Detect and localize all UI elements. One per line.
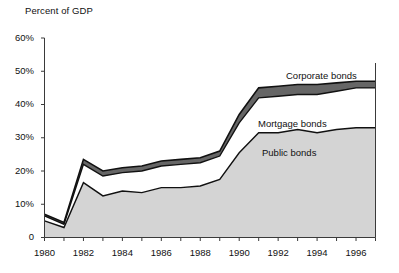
y-tick-label: 30% — [8, 131, 34, 142]
y-tick-label: 10% — [8, 198, 34, 209]
y-tick-label: 60% — [8, 32, 34, 43]
y-tick-label: 40% — [8, 98, 34, 109]
y-tick-label: 50% — [8, 65, 34, 76]
series-label-mortgage-bonds: Mortgage bonds — [258, 118, 327, 129]
x-tick-label: 1980 — [28, 247, 62, 258]
x-tick-label: 1994 — [300, 247, 334, 258]
x-tick-label: 1988 — [183, 247, 217, 258]
x-tick-label: 1982 — [66, 247, 100, 258]
series-label-public-bonds: Public bonds — [262, 147, 316, 158]
x-tick-label: 1986 — [144, 247, 178, 258]
x-tick-label: 1992 — [261, 247, 295, 258]
y-tick-label: 0 — [8, 231, 34, 242]
y-axis-ticks — [41, 38, 45, 238]
series-label-corporate-bonds: Corporate bonds — [286, 70, 357, 81]
x-tick-label: 1984 — [105, 247, 139, 258]
x-tick-label: 1990 — [222, 247, 256, 258]
x-axis-ticks — [45, 238, 376, 242]
stacked-area-plot — [0, 0, 399, 273]
y-tick-label: 20% — [8, 165, 34, 176]
x-tick-label: 1996 — [339, 247, 373, 258]
chart-figure: Percent of GDP 010%20%30%40%50%60% 19801… — [0, 0, 399, 273]
